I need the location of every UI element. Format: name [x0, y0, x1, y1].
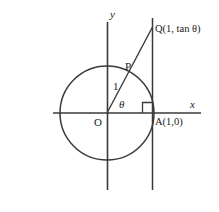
right-angle-marker	[143, 103, 153, 114]
origin-label: O	[94, 117, 102, 128]
angle-theta-label: θ	[119, 99, 124, 110]
unit-circle-tangent-figure: y x O P 1 θ A(1,0) Q(1, tan θ)	[0, 0, 219, 212]
point-a-label: A(1,0)	[155, 117, 183, 128]
point-p-label: P	[125, 61, 131, 72]
y-axis-label: y	[110, 9, 115, 20]
point-q-label: Q(1, tan θ)	[155, 24, 201, 35]
radius-length-label: 1	[113, 81, 119, 92]
x-axis-label: x	[190, 99, 195, 110]
